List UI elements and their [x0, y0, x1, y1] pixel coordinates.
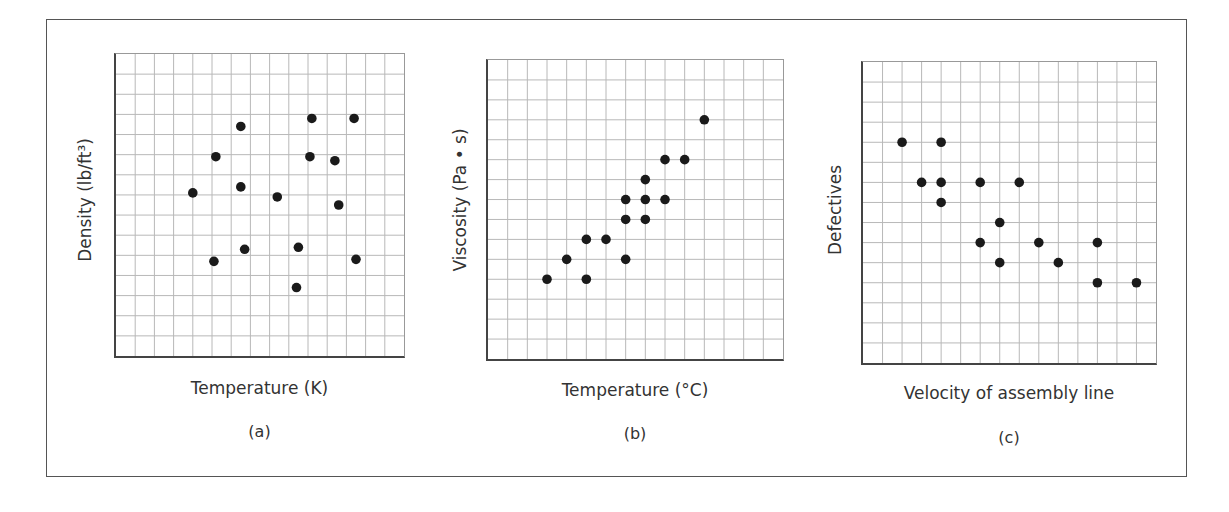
data-point: [236, 182, 246, 192]
plot-canvas: [863, 62, 1156, 363]
data-point: [917, 178, 927, 188]
data-point: [621, 215, 631, 225]
data-point: [621, 255, 631, 265]
data-point: [240, 244, 250, 254]
data-point: [660, 195, 670, 205]
data-point: [211, 152, 221, 162]
data-point: [562, 255, 572, 265]
data-point: [700, 115, 710, 125]
data-point: [334, 200, 344, 210]
data-point: [1014, 178, 1024, 188]
y-axis-label-b: Viscosity (Pa • s): [450, 110, 470, 290]
plot-canvas: [488, 60, 783, 359]
data-point: [582, 274, 592, 284]
caption-c: (c): [861, 428, 1157, 447]
data-point: [349, 114, 359, 124]
data-point: [936, 178, 946, 188]
data-point: [621, 195, 631, 205]
data-point: [307, 114, 317, 124]
scatter-plot-a: [114, 53, 405, 358]
data-point: [305, 152, 315, 162]
y-axis-label-c: Defectives: [825, 130, 845, 290]
caption-b: (b): [486, 424, 784, 443]
data-point: [209, 257, 219, 267]
data-point: [995, 218, 1005, 228]
data-point: [936, 198, 946, 208]
scatter-plot-b: [486, 59, 784, 361]
data-point: [236, 122, 246, 132]
x-axis-label-b: Temperature (°C): [486, 380, 784, 400]
data-point: [188, 188, 198, 198]
y-axis-label-a: Density (lb/ft³): [75, 110, 95, 290]
data-point: [1054, 258, 1064, 268]
x-axis-label-c: Velocity of assembly line: [861, 383, 1157, 403]
data-point: [1132, 278, 1142, 288]
data-point: [601, 235, 611, 245]
data-point: [897, 137, 907, 147]
data-point: [975, 238, 985, 248]
scatter-plot-c: [861, 61, 1157, 365]
data-point: [641, 215, 651, 225]
data-point: [936, 137, 946, 147]
data-point: [641, 175, 651, 185]
data-point: [1093, 238, 1103, 248]
data-point: [292, 283, 302, 293]
data-point: [660, 155, 670, 165]
data-point: [1093, 278, 1103, 288]
data-point: [680, 155, 690, 165]
data-point: [582, 235, 592, 245]
data-point: [641, 195, 651, 205]
data-point: [975, 178, 985, 188]
plot-canvas: [116, 54, 404, 356]
x-axis-label-a: Temperature (K): [114, 378, 405, 398]
data-point: [542, 274, 552, 284]
data-point: [330, 156, 340, 166]
data-point: [272, 192, 282, 202]
data-point: [995, 258, 1005, 268]
data-point: [351, 255, 361, 265]
data-point: [1034, 238, 1044, 248]
data-point: [294, 242, 304, 252]
caption-a: (a): [114, 422, 405, 441]
